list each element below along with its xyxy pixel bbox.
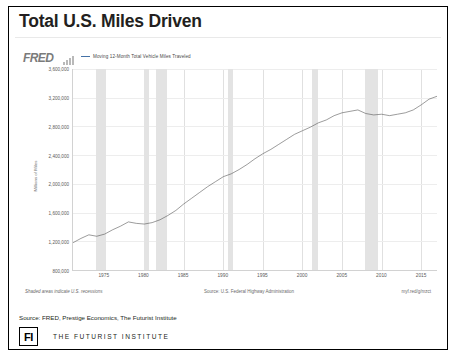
x-tick-label: 1995 [257,273,268,278]
chart-header: FRED Moving 12-Month Total Vehicle Miles… [19,45,439,69]
x-tick-label: 1990 [217,273,228,278]
x-tick-label: 2000 [297,273,308,278]
recession-note: Shaded areas indicate U.S. recessions [25,289,103,294]
fred-logo: FRED [23,51,53,65]
x-tick-label: 1985 [178,273,189,278]
series-polyline [73,96,437,242]
y-tick-label: 2,800,000 [49,124,69,129]
slide-container: Total U.S. Miles Driven FRED Moving 12-M… [8,6,448,350]
data-source-note: Source: U.S. Federal Highway Administrat… [204,289,294,294]
y-tick-label: 2,400,000 [49,153,69,158]
chart-footnotes: Shaded areas indicate U.S. recessions So… [19,287,439,301]
y-tick-label: 2,000,000 [49,182,69,187]
slide-source-line: Source: FRED, Prestige Economics, The Fu… [19,314,177,321]
y-tick-label: 1,600,000 [49,211,69,216]
x-axis-ticks: 197519801985199019952000200520102015 [72,271,437,285]
slide-footer: FI THE FUTURIST INSTITUTE [19,327,439,347]
chart-legend: Moving 12-Month Total Vehicle Miles Trav… [81,54,191,59]
organization-name: THE FUTURIST INSTITUTE [53,333,169,340]
y-tick-label: 3,600,000 [49,67,69,72]
futurist-institute-logo: FI [19,327,38,346]
x-tick-label: 2015 [416,273,427,278]
page-title: Total U.S. Miles Driven [19,11,202,32]
x-tick-label: 2010 [376,273,387,278]
y-tick-label: 3,200,000 [49,95,69,100]
legend-label: Moving 12-Month Total Vehicle Miles Trav… [93,54,191,59]
x-tick-label: 1980 [138,273,149,278]
fred-chart-panel: FRED Moving 12-Month Total Vehicle Miles… [19,45,439,313]
legend-color-swatch [81,56,90,58]
fred-permalink[interactable]: myf.red/g/mzct [401,289,431,294]
plot-wrapper: Millions of Miles 800,0001,200,0001,600,… [19,67,439,285]
title-divider [15,37,441,38]
y-axis-ticks: 800,0001,200,0001,600,0002,000,0002,400,… [27,67,71,285]
plot-area [72,69,437,271]
x-tick-label: 2005 [336,273,347,278]
y-tick-label: 1,200,000 [49,240,69,245]
data-series-line [73,69,437,270]
sparkline-icon [63,56,75,65]
x-tick-label: 1975 [98,273,109,278]
y-tick-label: 800,000 [52,269,69,274]
